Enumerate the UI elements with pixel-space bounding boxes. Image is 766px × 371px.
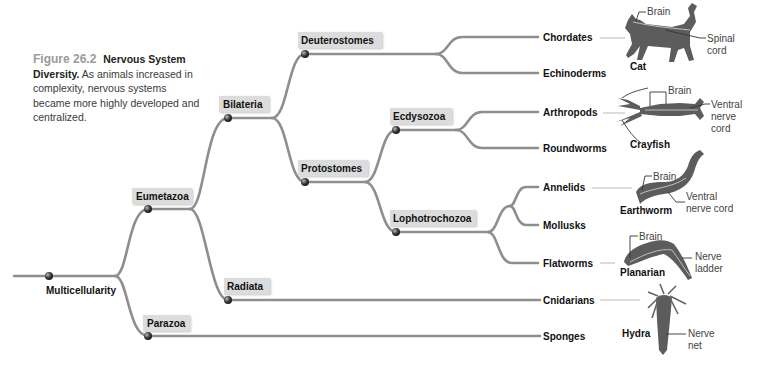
- cat-spinal-label: Spinal: [707, 33, 735, 44]
- earthworm-ventral-pointer: [668, 192, 685, 202]
- crayfish-antenna-top: [622, 88, 648, 98]
- earthworm-brain-label: Brain: [653, 171, 676, 182]
- crayfish-cord-label: cord: [711, 123, 730, 134]
- cat-brain-label: Brain: [647, 6, 670, 17]
- node-lophotrochozoa: [392, 228, 400, 236]
- crayfish-ventral-label: Ventral: [711, 99, 742, 110]
- hydra-illustration: Nerve net Hydra: [622, 284, 715, 355]
- branch-arthropods: [456, 112, 538, 130]
- hydra-name: Hydra: [622, 328, 651, 339]
- cat-cord-label: cord: [707, 45, 726, 56]
- node-eumetazoa: [144, 205, 152, 213]
- crayfish-name: Crayfish: [630, 139, 670, 150]
- branch-echinoderms: [436, 54, 538, 73]
- planarian-ladder-label: ladder: [695, 263, 723, 274]
- root-label: Multicellularity: [46, 285, 116, 296]
- hydra-nerve-label: Nerve: [688, 328, 715, 339]
- leaf-label-flatworms: Flatworms: [543, 258, 593, 269]
- earthworm-nerve-cord-label: nerve cord: [686, 203, 733, 214]
- leaf-labels: Chordates Echinoderms Arthropods Roundwo…: [543, 32, 607, 342]
- clade-label-eumetazoa: Eumetazoa: [136, 191, 189, 202]
- leaf-label-sponges: Sponges: [543, 331, 586, 342]
- leaf-label-mollusks: Mollusks: [543, 220, 586, 231]
- node-radiata: [224, 296, 232, 304]
- clade-label-parazoa: Parazoa: [147, 318, 186, 329]
- node-parazoa: [144, 332, 152, 340]
- branch-flatworms: [488, 232, 538, 263]
- node-deuterostomes: [301, 50, 309, 58]
- node-bilateria: [224, 114, 232, 122]
- earthworm-ventral-label: Ventral: [686, 191, 717, 202]
- planarian-brain-label: Brain: [639, 231, 662, 242]
- branch-chordates: [436, 37, 538, 54]
- hydra-net-label: net: [688, 340, 702, 351]
- branch-ecdysozoa: [365, 130, 456, 182]
- branch-mollusks: [510, 206, 538, 225]
- node-multicellularity: [45, 272, 53, 280]
- branch-roundworms: [456, 130, 538, 148]
- node-ecdysozoa: [392, 126, 400, 134]
- clade-label-lophotrochozoa: Lophotrochozoa: [393, 213, 472, 224]
- leaf-label-arthropods: Arthropods: [543, 107, 598, 118]
- planarian-nerve-label: Nerve: [695, 251, 722, 262]
- clade-label-deuterostomes: Deuterostomes: [301, 35, 374, 46]
- branch-annelid-mollusk: [488, 206, 510, 232]
- clade-label-protostomes: Protostomes: [301, 163, 363, 174]
- node-protostomes: [301, 178, 309, 186]
- hydra-body: [656, 295, 672, 355]
- leaf-label-roundworms: Roundworms: [543, 143, 607, 154]
- leaf-label-annelids: Annelids: [543, 182, 586, 193]
- clade-label-bilateria: Bilateria: [223, 99, 263, 110]
- crayfish-brain-label: Brain: [668, 85, 691, 96]
- branch-eumetazoa: [115, 209, 190, 276]
- leaf-label-chordates: Chordates: [543, 32, 593, 43]
- phylogenetic-tree: Eumetazoa Parazoa Bilateria Radiata Deut…: [0, 0, 766, 371]
- planarian-illustration: Brain Nerve ladder Planarian: [620, 231, 723, 280]
- clade-label-radiata: Radiata: [227, 281, 264, 292]
- earthworm-name: Earthworm: [620, 205, 672, 216]
- planarian-name: Planarian: [620, 267, 665, 278]
- cat-illustration: Brain Spinal cord Cat: [625, 3, 735, 72]
- cat-name: Cat: [630, 61, 647, 72]
- branch-annelids: [510, 187, 538, 206]
- leaf-label-cnidarians: Cnidarians: [543, 295, 595, 306]
- leaf-label-echinoderms: Echinoderms: [543, 68, 607, 79]
- crayfish-claws: [616, 98, 642, 126]
- crayfish-nerve-label: nerve: [711, 111, 736, 122]
- crayfish-illustration: Brain Ventral nerve cord Crayfish: [616, 85, 742, 150]
- branch-bilateria: [190, 118, 272, 209]
- clade-label-ecdysozoa: Ecdysozoa: [393, 111, 446, 122]
- earthworm-illustration: Brain Ventral nerve cord Earthworm: [620, 150, 733, 216]
